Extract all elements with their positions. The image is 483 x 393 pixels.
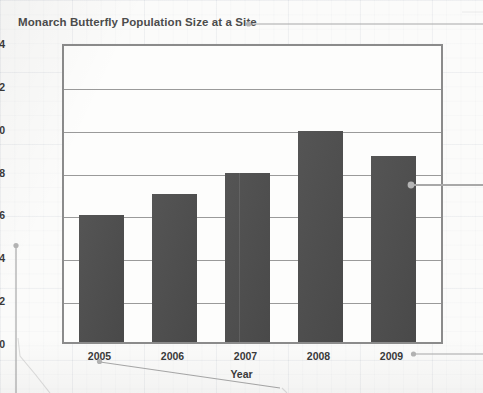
bar-2007[interactable] xyxy=(225,173,270,342)
chart-title: Monarch Butterfly Population Size at a S… xyxy=(18,16,257,28)
y-tick-label-8: 8 xyxy=(0,167,5,179)
y-tick-label-10: 10 xyxy=(0,124,5,136)
bar-2009[interactable] xyxy=(371,156,416,342)
gridline-12 xyxy=(64,89,441,90)
x-tick-label-2006: 2006 xyxy=(161,350,184,362)
x-axis-title: Year xyxy=(0,368,483,380)
y-tick-label-6: 6 xyxy=(0,209,5,221)
bar-2008[interactable] xyxy=(298,131,343,342)
y-tick-label-0: 0 xyxy=(0,338,5,350)
y-tick-label-12: 12 xyxy=(0,81,5,93)
gridline-10 xyxy=(64,132,441,133)
x-tick-label-2005: 2005 xyxy=(88,350,111,362)
y-tick-label-14: 14 xyxy=(0,38,5,50)
bar-chart-figure: Monarch Butterfly Population Size at a S… xyxy=(0,0,483,393)
bar-2005[interactable] xyxy=(79,215,124,342)
x-tick-label-2009: 2009 xyxy=(380,350,403,362)
y-tick-label-2: 2 xyxy=(0,295,5,307)
y-tick-label-4: 4 xyxy=(0,252,5,264)
x-tick-label-2008: 2008 xyxy=(307,350,330,362)
bar-2006[interactable] xyxy=(152,194,197,342)
x-tick-label-2007: 2007 xyxy=(234,350,257,362)
bar-fold-seam xyxy=(239,173,240,342)
plot-area xyxy=(62,44,443,344)
